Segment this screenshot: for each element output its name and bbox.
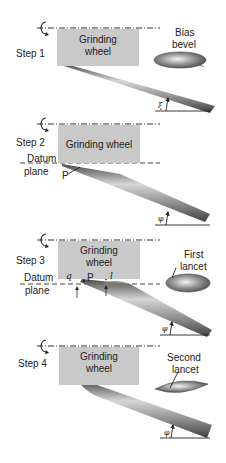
grinding-wheel-step4: Grinding wheel xyxy=(59,347,139,385)
offset-l-label: l xyxy=(110,271,113,282)
angle-phi-label: φ xyxy=(164,427,170,438)
wheel-label-line1: Grinding xyxy=(58,245,140,256)
diagram-graphics xyxy=(0,0,226,463)
second-lancet-shape xyxy=(155,381,208,393)
second-lancet-label-line2: lancet xyxy=(172,364,199,375)
bias-bevel-shape xyxy=(154,52,206,68)
wheel-label-line2: wheel xyxy=(57,46,139,57)
step4-label: Step 4 xyxy=(18,358,47,369)
wheel-label-line2: wheel xyxy=(59,363,139,374)
bias-bevel-label-line1: Bias xyxy=(175,27,194,38)
needle xyxy=(64,64,215,113)
step3-label: Step 3 xyxy=(16,255,45,266)
wheel-label: Grinding wheel xyxy=(58,139,140,150)
wheel-label-line1: Grinding xyxy=(59,351,139,362)
point-p-label: P xyxy=(62,170,69,181)
grinding-wheel-step1: Grinding wheel xyxy=(57,29,139,66)
needle xyxy=(62,164,210,222)
datum-plane-label-line2: plane xyxy=(24,166,48,177)
wheel-label-line2: wheel xyxy=(58,257,140,268)
point-p-label: P xyxy=(87,272,94,283)
wheel-label-line1: Grinding xyxy=(57,34,139,45)
angle-xi-label: ξ xyxy=(158,100,162,111)
angle-phi-label: φ xyxy=(158,213,164,224)
second-lancet-label-line1: Second xyxy=(167,352,201,363)
step1-label: Step 1 xyxy=(16,48,45,59)
first-lancet-label-line2: lancet xyxy=(180,261,207,272)
datum-plane-label-line1: Datum xyxy=(24,272,53,283)
datum-plane-label-line2: plane xyxy=(25,285,49,296)
step2-label: Step 2 xyxy=(16,137,45,148)
first-lancet-label-line1: First xyxy=(184,249,203,260)
grinding-wheel-step2: Grinding wheel xyxy=(58,125,140,163)
offset-q-label: q xyxy=(66,271,72,282)
angle-phi-label: φ xyxy=(162,323,168,334)
bias-bevel-label-line2: bevel xyxy=(172,39,196,50)
datum-plane-label-line1: Datum xyxy=(27,153,56,164)
